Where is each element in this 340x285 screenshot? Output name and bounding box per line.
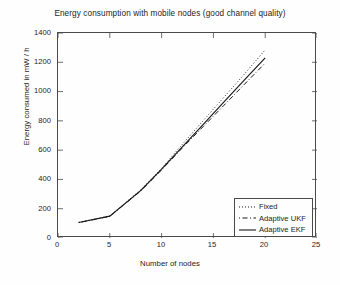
chart-title: Energy consumption with mobile nodes (go…: [0, 9, 340, 18]
legend-label: Fixed: [259, 202, 278, 211]
x-tick-label: 20: [251, 241, 277, 249]
y-tick-label: 200: [17, 205, 51, 213]
x-tick-label: 5: [96, 241, 122, 249]
legend-swatch-dotted: [238, 202, 257, 212]
y-tick-label: 800: [17, 117, 51, 125]
series-line-fixed: [79, 50, 265, 222]
legend-swatch-solid: [238, 225, 257, 235]
y-tick-label: 1400: [17, 29, 51, 37]
figure-container: Energy consumption with mobile nodes (go…: [0, 0, 340, 285]
x-axis-label: Number of nodes: [0, 259, 340, 268]
legend-label: Adaptive UKF: [259, 214, 306, 223]
legend-swatch-dashdot: [238, 213, 257, 223]
legend: Fixed Adaptive UKF Adaptive EKF: [234, 198, 313, 237]
x-tick-label: 25: [303, 241, 329, 249]
y-tick-label: 1000: [17, 87, 51, 95]
y-tick-label: 1200: [17, 58, 51, 66]
legend-label: Adaptive EKF: [259, 225, 305, 234]
legend-item-adaptive-ukf: Adaptive UKF: [238, 213, 312, 225]
x-tick-label: 0: [44, 241, 70, 249]
x-tick-label: 15: [199, 241, 225, 249]
legend-item-adaptive-ekf: Adaptive EKF: [238, 224, 312, 236]
x-tick-label: 10: [148, 241, 174, 249]
legend-item-fixed: Fixed: [238, 201, 312, 213]
y-tick-label: 600: [17, 146, 51, 154]
data-series-group: [79, 50, 265, 223]
y-tick-label: 400: [17, 175, 51, 183]
